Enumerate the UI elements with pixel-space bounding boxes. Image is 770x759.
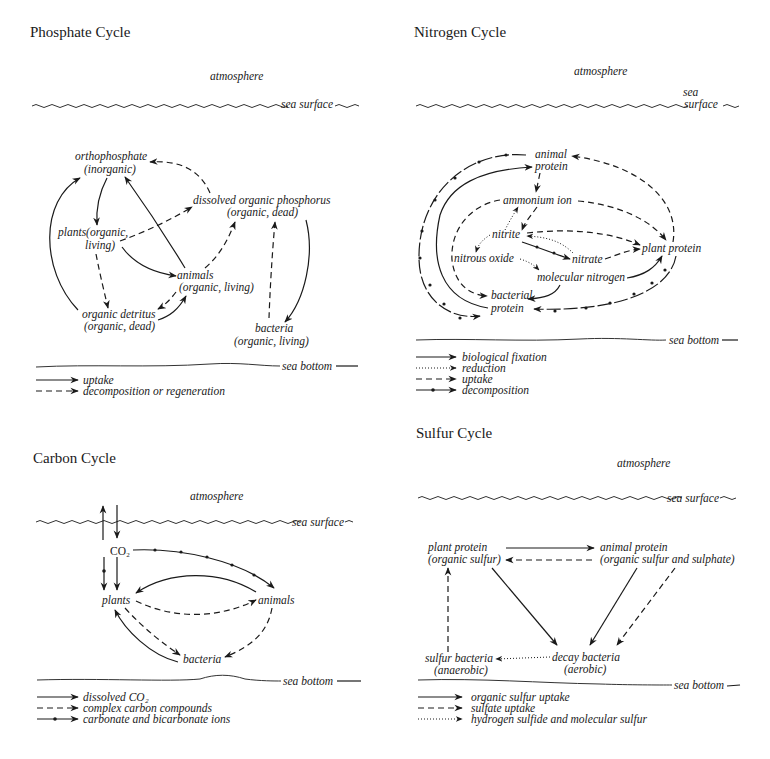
arrow-plant-to-decay bbox=[492, 568, 557, 645]
atmosphere-label: atmosphere bbox=[617, 457, 670, 470]
node-sulfur-bacteria-sub: (anaerobic) bbox=[434, 664, 488, 677]
legend-hydrogen-sulfide: hydrogen sulfide and molecular sulfur bbox=[471, 713, 647, 726]
sea-bottom-label: sea bottom bbox=[674, 679, 724, 691]
sea-bottom-line bbox=[418, 680, 672, 685]
arrow-decay-to-sulfur-bacteria bbox=[496, 657, 550, 659]
node-animal-protein-sub: (organic sulfur and sulphate) bbox=[600, 553, 735, 566]
arrow-animal-to-decay bbox=[590, 568, 637, 645]
sea-surface-wave bbox=[418, 497, 682, 500]
node-decay-bacteria-sub: (aerobic) bbox=[564, 663, 607, 676]
arrow-animal-to-decay-sulfate bbox=[617, 568, 675, 645]
sea-bottom-line-end bbox=[727, 685, 740, 686]
node-plant-protein-sub: (organic sulfur) bbox=[428, 553, 501, 566]
sea-surface-label: sea surface bbox=[667, 492, 719, 505]
sulfur-cycle-diagram: atmosphere sea surface plant protein (or… bbox=[0, 0, 770, 759]
sea-surface-wave-end bbox=[720, 497, 736, 500]
